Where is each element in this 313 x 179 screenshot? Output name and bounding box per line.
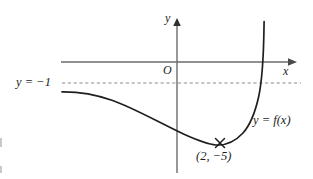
function-label: y = f(x) bbox=[253, 114, 291, 127]
arrow-right-icon bbox=[288, 58, 297, 66]
page-edge-artifact-lower bbox=[0, 166, 2, 173]
x-axis-label: x bbox=[283, 65, 288, 77]
cross-marker bbox=[216, 139, 225, 148]
arrow-up-icon bbox=[173, 18, 181, 26]
function-graph-figure: y x O y = −1 y = f(x) (2, −5) bbox=[0, 0, 313, 179]
origin-label: O bbox=[163, 64, 172, 76]
minimum-point-label: (2, −5) bbox=[196, 150, 232, 163]
graph-canvas bbox=[0, 0, 313, 179]
asymptote-label: y = −1 bbox=[16, 76, 51, 89]
y-axis-label: y bbox=[165, 12, 170, 24]
page-edge-artifact-upper bbox=[0, 138, 2, 147]
